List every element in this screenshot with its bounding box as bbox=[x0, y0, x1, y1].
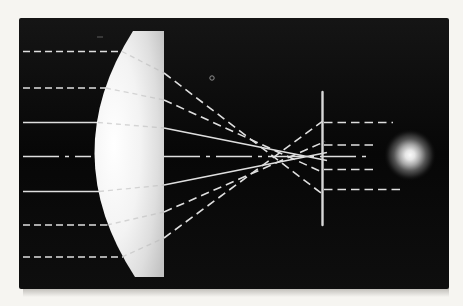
blur-spot-layer bbox=[384, 129, 436, 181]
spherical-aberration-diagram bbox=[0, 0, 463, 306]
photo-page bbox=[0, 0, 463, 306]
focal-blur-spot bbox=[384, 129, 436, 181]
